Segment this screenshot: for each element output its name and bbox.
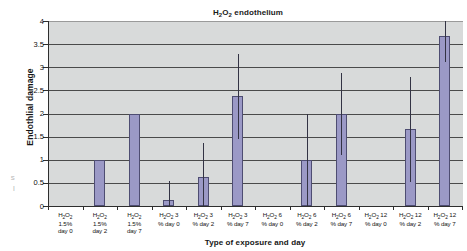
x-axis-category-label: H2O2 12% day 7 [422, 211, 467, 227]
gridline [49, 183, 463, 184]
x-axis-tick [117, 206, 118, 210]
x-axis-title: Type of exposure and day [48, 238, 462, 247]
y-axis-tick-label: 0.5 [24, 178, 44, 187]
gridline [49, 114, 463, 115]
x-axis-tick [393, 206, 394, 210]
y-axis-tick-label: 2 [24, 109, 44, 118]
margin-stray-text: sl [1, 172, 15, 194]
x-axis-tick [462, 206, 463, 210]
gridline [49, 21, 463, 22]
y-axis-tick-label: 4 [24, 17, 44, 26]
x-axis-tick [186, 206, 187, 210]
chart-title-text: H2O2 endothelium [213, 8, 283, 17]
error-bar [169, 181, 170, 206]
chart-title: H2O2 endothelium [48, 8, 448, 17]
gridline [49, 137, 463, 138]
x-axis-tick [221, 206, 222, 210]
x-axis-tick [290, 206, 291, 210]
y-axis-tick-label: 1.5 [24, 132, 44, 141]
plot-area [48, 21, 463, 207]
error-bar [307, 114, 308, 207]
gridline [49, 160, 463, 161]
gridline [49, 90, 463, 91]
gridline [49, 67, 463, 68]
x-axis-tick [255, 206, 256, 210]
x-axis-tick [48, 206, 49, 210]
x-axis-category-label-line: day 7 [111, 227, 157, 235]
y-axis-tick-label: 1 [24, 155, 44, 164]
y-axis-tick-label: 0 [24, 202, 44, 211]
x-axis-tick [152, 206, 153, 210]
x-axis-category-label-line: % day 7 [422, 220, 467, 228]
y-axis-tick-label: 3 [24, 63, 44, 72]
chart-container: sl H2O2 endothelium Endothlial damage Ty… [0, 0, 467, 251]
x-axis-tick [359, 206, 360, 210]
x-axis-tick [428, 206, 429, 210]
error-bar [341, 73, 342, 154]
x-axis-tick [83, 206, 84, 210]
x-axis-tick [324, 206, 325, 210]
x-axis-category-label-line: H2O2 12 [422, 211, 467, 220]
y-axis-tick-label: 2.5 [24, 86, 44, 95]
error-bar [238, 54, 239, 139]
bar[interactable] [94, 160, 105, 206]
error-bar [410, 77, 411, 182]
gridline [49, 44, 463, 45]
error-bar [445, 21, 446, 62]
bar[interactable] [439, 36, 450, 206]
error-bar [203, 143, 204, 206]
bar[interactable] [129, 114, 140, 207]
y-axis-tick-label: 3.5 [24, 40, 44, 49]
